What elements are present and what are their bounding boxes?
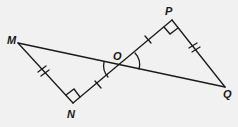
label-o: O [113, 50, 122, 62]
right-angle-mark-p [164, 27, 178, 34]
segment-np [73, 20, 172, 103]
right-angle-mark-n [66, 89, 80, 97]
geometry-diagram: M N O P Q [0, 0, 238, 127]
label-n: N [67, 108, 76, 120]
label-p: P [165, 5, 173, 17]
diagram-svg: M N O P Q [0, 0, 238, 127]
angle-arc-poq [135, 53, 140, 69]
label-m: M [7, 34, 17, 46]
label-q: Q [223, 88, 232, 100]
